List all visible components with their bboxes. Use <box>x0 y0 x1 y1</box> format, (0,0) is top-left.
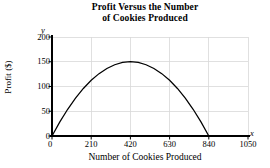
x-tick-420: 420 <box>124 140 137 149</box>
y-axis-title: Profit ($) <box>3 42 13 112</box>
y-axis-symbol: y <box>41 25 45 35</box>
x-tick-840: 840 <box>202 140 215 149</box>
chart-figure: Profit Versus the Number of Cookies Prod… <box>0 0 270 168</box>
x-axis-title: Number of Cookies Produced <box>45 152 245 162</box>
x-tick-630: 630 <box>163 140 176 149</box>
x-tick-0: 0 <box>48 140 52 149</box>
x-axis-symbol: x <box>250 128 254 138</box>
x-tick-210: 210 <box>85 140 98 149</box>
x-tick-1050: 1050 <box>240 140 257 149</box>
